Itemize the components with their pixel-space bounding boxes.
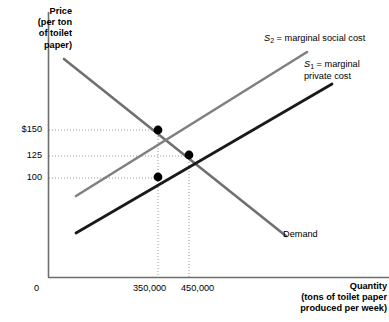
s2-curve-label: S2 = marginal social cost [264,33,365,45]
y-tick-label-100: 100 [0,172,42,182]
externality-graph: Price (per ton of toilet paper) Quantity… [0,0,389,322]
s1-subscript: 1 [310,63,314,70]
s1-curve-label: S1 = marginalprivate cost [304,59,360,82]
point-social-optimum [154,126,163,135]
gridlines [49,130,189,277]
y-axis-title: Price (per ton of toilet paper) [2,6,72,51]
axis-lines [48,12,389,278]
s2-subscript: 2 [270,37,274,44]
x-tick-label-350000: 350,000 [133,283,166,293]
s1-private-cost-curve [76,84,332,233]
demand-curve-label: Demand [283,229,318,241]
point-market-equilibrium [185,151,194,160]
origin-label: 0 [34,283,39,293]
point-private-cost-at-optimum [154,173,163,182]
y-tick-label-150: $150 [0,124,42,134]
s1-description: = marginal [314,59,360,69]
x-axis-title: Quantity (tons of toilet paper produced … [249,281,387,315]
x-tick-label-450000: 450,000 [181,283,214,293]
s1-description-line2: private cost [304,71,351,81]
s2-description: = marginal social cost [274,33,365,43]
s2-social-cost-curve [76,52,307,196]
y-tick-label-125: 125 [0,150,42,160]
